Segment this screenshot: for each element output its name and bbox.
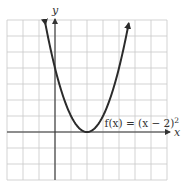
x-axis-label: x bbox=[174, 126, 181, 139]
function-label: f(x) = (x − 2)2 bbox=[105, 116, 180, 129]
function-label-text: f(x) = (x − 2) bbox=[105, 117, 175, 129]
y-axis-label: y bbox=[51, 4, 59, 17]
function-label-exponent: 2 bbox=[174, 116, 179, 125]
grid bbox=[7, 20, 167, 180]
function-graph: x y f(x) = (x − 2)2 bbox=[0, 0, 183, 188]
